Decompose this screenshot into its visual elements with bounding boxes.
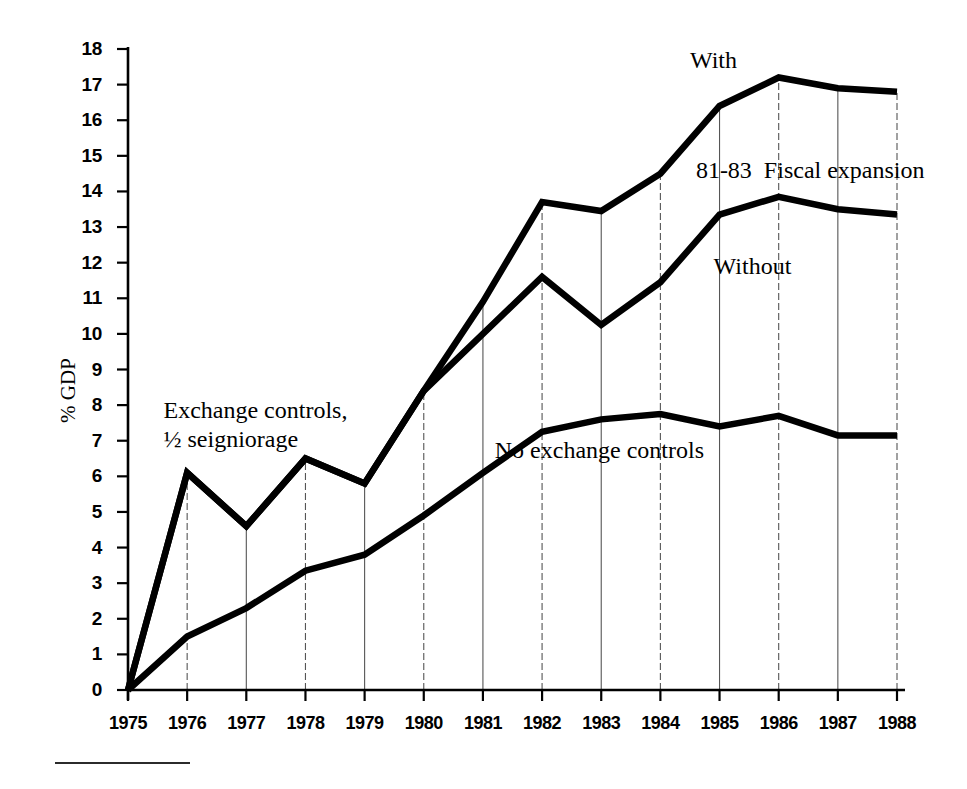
y-tick-label-13: 13 [68,217,102,236]
x-tick-label-1984: 1984 [628,714,692,732]
y-tick-label-12: 12 [68,253,102,272]
y-tick-label-14: 14 [68,181,102,200]
annotation-fiscal-expansion: 81-83 Fiscal expansion [696,156,925,184]
footnote-rule [55,762,190,764]
y-tick-label-7: 7 [68,431,102,450]
chart-figure: % GDP 1817161514131211109876543210 19751… [0,0,967,789]
annotation-with: With [690,46,737,74]
annotation-without: Without [714,252,792,280]
y-tick-label-2: 2 [68,609,102,628]
annotation-no-exchange-controls: No exchange controls [495,436,704,464]
x-tick-label-1988: 1988 [865,714,929,732]
x-tick-label-1978: 1978 [273,714,337,732]
line-chart-plot [0,0,967,789]
y-tick-label-15: 15 [68,146,102,165]
y-tick-label-0: 0 [68,680,102,699]
x-tick-label-1985: 1985 [688,714,752,732]
y-tick-label-11: 11 [68,288,102,307]
x-tick-label-1982: 1982 [510,714,574,732]
y-tick-label-6: 6 [68,466,102,485]
y-tick-label-8: 8 [68,395,102,414]
x-tick-label-1977: 1977 [214,714,278,732]
y-tick-label-9: 9 [68,360,102,379]
x-tick-label-1986: 1986 [747,714,811,732]
x-tick-label-1976: 1976 [155,714,219,732]
y-tick-label-10: 10 [68,324,102,343]
annotation-exchange-controls: Exchange controls, ½ seigniorage [163,396,347,453]
y-tick-label-18: 18 [68,39,102,58]
y-tick-label-1: 1 [68,644,102,663]
x-tick-label-1983: 1983 [569,714,633,732]
y-tick-label-3: 3 [68,573,102,592]
y-tick-label-5: 5 [68,502,102,521]
x-tick-label-1987: 1987 [806,714,870,732]
y-tick-label-17: 17 [68,75,102,94]
x-tick-label-1979: 1979 [333,714,397,732]
y-tick-label-16: 16 [68,110,102,129]
x-tick-label-1975: 1975 [96,714,160,732]
x-tick-label-1980: 1980 [392,714,456,732]
y-tick-label-4: 4 [68,538,102,557]
x-tick-label-1981: 1981 [451,714,515,732]
